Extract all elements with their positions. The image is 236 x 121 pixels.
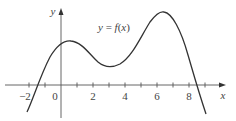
tick-label-4: 4 [122, 90, 128, 102]
tick-label-6: 6 [154, 90, 160, 102]
y-axis-label: y [50, 5, 56, 17]
tick-label-8: 8 [186, 90, 192, 102]
tick-label-0: 0 [52, 90, 58, 102]
y-axis-arrow-icon [59, 8, 64, 15]
function-label: y = f(x) [97, 21, 130, 34]
x-axis-arrow-icon [219, 83, 226, 88]
tick-label-neg2: −2 [19, 90, 31, 102]
x-axis-label: x [220, 89, 226, 101]
tick-label-2: 2 [90, 90, 96, 102]
function-graph: −2 0 2 4 6 8 x y y = f(x) [0, 0, 236, 121]
